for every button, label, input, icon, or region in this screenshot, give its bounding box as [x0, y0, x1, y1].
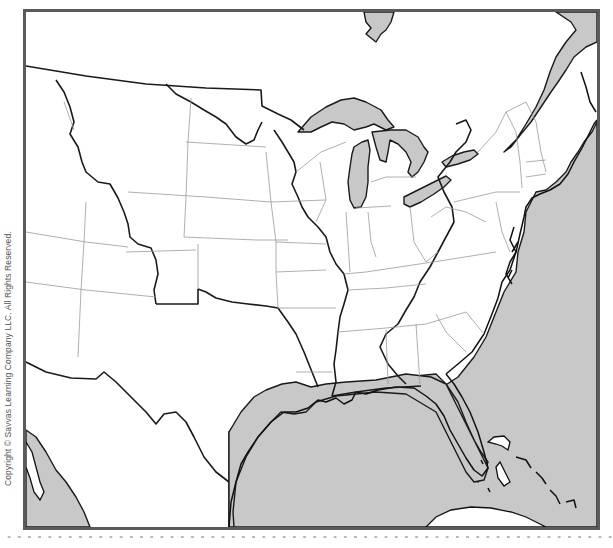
copyright-notice: Copyright © Savvas Learning Company LLC.… — [3, 231, 13, 486]
map-frame — [23, 9, 600, 530]
outline-map — [26, 12, 597, 527]
dotted-divider — [4, 535, 612, 539]
